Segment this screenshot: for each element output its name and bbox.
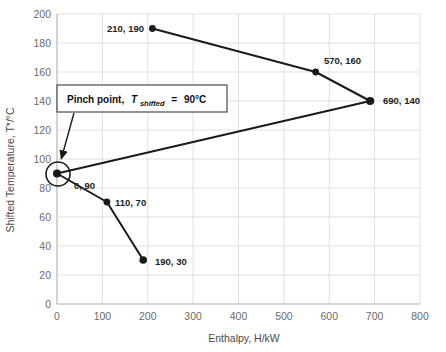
data-point-marker	[312, 69, 319, 76]
y-tick-label: 140	[33, 95, 51, 107]
callout-subscript: shifted	[140, 99, 165, 108]
x-tick-label: 800	[411, 310, 429, 322]
x-tick-label: 700	[366, 310, 384, 322]
x-tick-label: 600	[321, 310, 339, 322]
data-point-marker	[53, 170, 61, 178]
y-tick-label: 60	[39, 211, 51, 223]
data-point-marker	[366, 97, 374, 105]
data-point-label: 570, 160	[324, 55, 361, 66]
y-tick-label: 200	[33, 8, 51, 20]
x-tick-label: 200	[139, 310, 157, 322]
y-tick-labels: 200 180 160 140 120 100 80 60 40 20 0	[33, 8, 51, 310]
y-tick-label: 20	[39, 269, 51, 281]
x-tick-label: 100	[94, 310, 112, 322]
data-point-marker	[104, 199, 111, 206]
data-point-label: 190, 30	[155, 256, 187, 267]
y-tick-label: 0	[45, 298, 51, 310]
x-tick-label: 0	[54, 310, 60, 322]
y-tick-label: 100	[33, 153, 51, 165]
callout-symbol: T	[131, 94, 138, 105]
data-point-label: 110, 70	[115, 197, 146, 208]
x-axis-title: Enthalpy, H/kW	[208, 332, 280, 344]
callout-lead-text: Pinch point,	[67, 94, 124, 105]
x-tick-label: 400	[230, 310, 248, 322]
y-tick-label: 40	[39, 240, 51, 252]
y-axis-title: Shifted Temperature, T*/°C	[4, 107, 16, 233]
y-tick-label: 120	[33, 124, 51, 136]
y-tick-label: 180	[33, 37, 51, 49]
callout-equals: =	[171, 94, 177, 105]
chart-container: 200 180 160 140 120 100 80 60 40 20 0 0 …	[0, 0, 446, 352]
data-point-label: 690, 140	[383, 95, 420, 106]
data-point-label: 0, 90	[74, 180, 95, 191]
y-tick-label: 160	[33, 66, 51, 78]
x-tick-label: 300	[184, 310, 202, 322]
x-tick-labels: 0 100 200 300 400 500 600 700 800	[54, 310, 429, 322]
x-tick-label: 500	[275, 310, 293, 322]
callout-value: 90°C	[184, 94, 206, 105]
data-point-label: 210, 190	[107, 23, 144, 34]
data-point-marker	[139, 256, 147, 264]
data-point-marker	[149, 25, 156, 32]
grand-composite-curve-chart: 200 180 160 140 120 100 80 60 40 20 0 0 …	[0, 0, 446, 352]
y-tick-label: 80	[39, 182, 51, 194]
